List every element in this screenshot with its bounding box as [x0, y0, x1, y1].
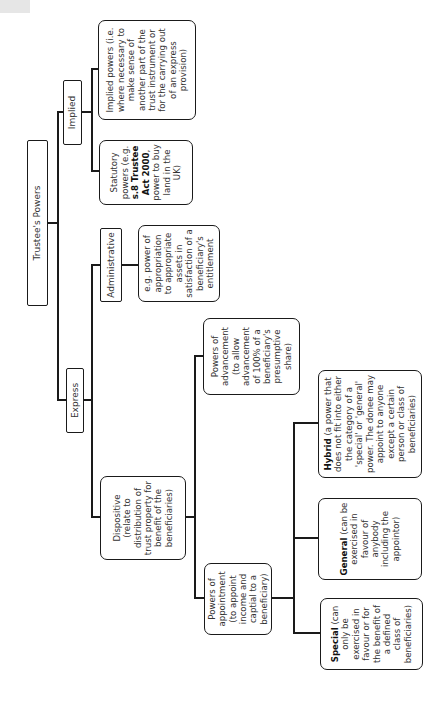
connector [194, 597, 204, 599]
node-text: e.g. power of appropriation to appropria… [142, 229, 215, 298]
connector [293, 632, 320, 634]
node-text: Implied powers (i.e. where necessary to … [105, 24, 189, 116]
connector [272, 597, 294, 599]
node-text: Special (can only be exercised in favour… [330, 602, 414, 666]
connector [293, 423, 295, 634]
connector [57, 399, 66, 401]
node-administrative-detail: e.g. power of appropriation to appropria… [138, 225, 220, 302]
connector [91, 516, 100, 518]
node-general: General (can be exercised in favour of a… [318, 498, 422, 580]
connector [194, 356, 196, 599]
connector [57, 112, 59, 401]
connector [91, 69, 93, 172]
node-implied: Implied [63, 80, 82, 145]
node-powers-of-appointment: Powers of appointment (to appoint income… [204, 563, 272, 635]
connector [194, 355, 203, 357]
node-bold-term: Hybrid [323, 438, 333, 470]
connector [122, 264, 138, 266]
node-administrative: Administrative [100, 228, 122, 302]
connector [293, 422, 318, 424]
node-label: Express [70, 383, 81, 418]
node-special: Special (can only be exercised in favour… [320, 598, 423, 670]
node-text: Powers of advancement (to allow advancem… [210, 322, 294, 391]
node-statutory-powers: Statutory powers (e.g. s.8 Trustee Act 2… [99, 140, 193, 205]
node-text: Powers of appointment (to appoint income… [207, 567, 270, 631]
node-text: Hybrid (a power that does not fit into e… [323, 374, 417, 474]
connector [91, 68, 98, 70]
node-bold-term: s.8 Trustee Act 2000 [130, 146, 150, 200]
connector [293, 537, 318, 539]
node-trustees-powers: Trustee's Powers [27, 140, 48, 306]
node-powers-of-advancement: Powers of advancement (to allow advancem… [203, 318, 300, 395]
node-express: Express [66, 368, 84, 433]
connector [91, 264, 100, 266]
node-bold-term: General [339, 538, 349, 576]
node-text: Statutory powers (e.g. s.8 Trustee Act 2… [109, 144, 182, 201]
node-label: Administrative [106, 232, 117, 298]
node-implied-powers-detail: Implied powers (i.e. where necessary to … [98, 20, 196, 120]
connector [91, 265, 93, 518]
node-bold-term: Special [330, 627, 340, 662]
node-label: Trustee's Powers [32, 186, 43, 261]
node-text: General (can be exercised in favour of a… [339, 502, 402, 576]
node-desc: (can only be exercised in favour or for … [330, 605, 413, 663]
node-desc: (a power that does not fit into either t… [323, 375, 417, 473]
diagram-canvas: Trustee's Powers Express Implied Adminis… [0, 0, 443, 713]
node-dispositive: Dispositive (relate to distribution of t… [100, 476, 186, 560]
connector [91, 170, 99, 172]
node-text: Dispositive (relate to distribution of t… [112, 480, 175, 556]
node-hybrid: Hybrid (a power that does not fit into e… [318, 370, 422, 478]
node-desc: Statutory powers (e.g. [109, 146, 129, 199]
node-label: Implied [67, 96, 78, 129]
